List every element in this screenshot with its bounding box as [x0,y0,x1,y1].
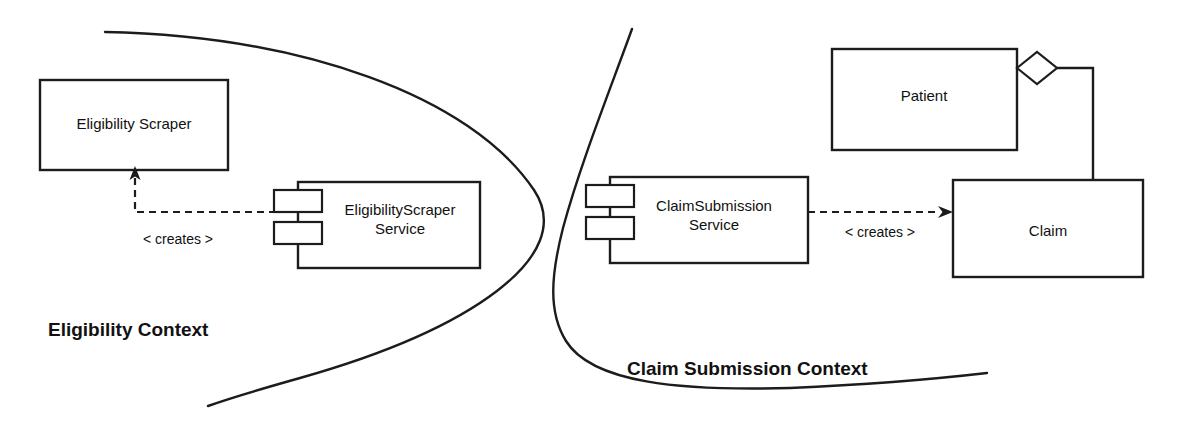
diagram-canvas: Eligibility Scraper < creates > Eligibil… [0,0,1179,439]
patient-label: Patient [901,87,949,104]
eligibility-scraper-service-label-line2: Service [375,220,425,237]
claim-node[interactable]: Claim [953,180,1143,277]
aggregation-diamond-icon [1017,52,1057,84]
aggregation-connector-line[interactable] [1057,68,1093,180]
eligibility-scraper-service-node[interactable]: EligibilityScraper Service [274,182,480,268]
claim-submission-service-tab-upper [586,185,634,207]
eligibility-scraper-node[interactable]: Eligibility Scraper [40,80,228,170]
claim-submission-service-node[interactable]: ClaimSubmission Service [586,177,808,263]
claim-submission-context-label: Claim Submission Context [627,358,868,379]
claim-submission-service-label-line2: Service [689,216,739,233]
claim-submission-service-tab-lower [586,217,634,239]
eligibility-scraper-service-tab-lower [274,222,322,244]
creates-claim-label: < creates > [845,224,915,240]
claim-label: Claim [1029,222,1067,239]
patient-node[interactable]: Patient [832,49,1017,150]
eligibility-scraper-label: Eligibility Scraper [76,115,191,132]
creates-eligibility-edge[interactable]: < creates > [130,166,277,247]
eligibility-context-label: Eligibility Context [48,319,209,340]
creates-eligibility-label: < creates > [143,231,213,247]
creates-claim-arrowhead [938,206,953,218]
uml-diagram: Eligibility Scraper < creates > Eligibil… [0,0,1179,439]
eligibility-scraper-service-label-line1: EligibilityScraper [345,201,456,218]
creates-claim-edge[interactable]: < creates > [808,206,953,240]
creates-eligibility-dashed-line[interactable] [135,178,276,212]
eligibility-scraper-service-tab-upper [274,190,322,212]
claim-submission-service-label-line1: ClaimSubmission [656,197,772,214]
patient-claim-aggregation-edge[interactable] [1017,52,1093,180]
